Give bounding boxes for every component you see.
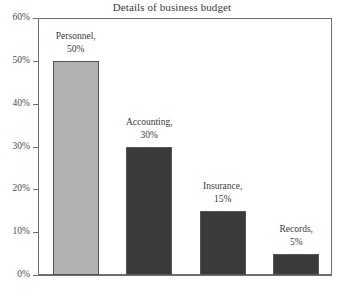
y-tick-mark xyxy=(33,275,38,276)
y-tick-label: 10% xyxy=(13,225,30,238)
y-tick-label: 60% xyxy=(13,11,30,24)
bar-accounting xyxy=(126,147,172,276)
y-axis-tick: 40% xyxy=(0,104,38,105)
bar-label-records: Records,5% xyxy=(246,223,344,249)
y-tick-label: 30% xyxy=(13,140,30,153)
chart-title: Details of business budget xyxy=(0,1,344,14)
y-tick-mark xyxy=(33,18,38,19)
y-axis-tick: 20% xyxy=(0,189,38,190)
bar-label-value: 30% xyxy=(99,129,201,142)
y-axis-tick: 0% xyxy=(0,275,38,276)
bar-label-name: Personnel, xyxy=(25,30,127,43)
y-tick-mark xyxy=(33,189,38,190)
y-axis-tick: 50% xyxy=(0,61,38,62)
y-axis-tick: 30% xyxy=(0,147,38,148)
bar-personnel xyxy=(53,61,99,275)
y-tick-label: 0% xyxy=(17,268,30,281)
bar-label-value: 5% xyxy=(246,236,344,249)
y-axis-tick: 60% xyxy=(0,18,38,19)
bar-records xyxy=(273,254,319,275)
bar-label-value: 15% xyxy=(172,193,274,206)
y-tick-mark xyxy=(33,147,38,148)
bar-chart: Details of business budget 60%50%40%30%2… xyxy=(0,0,344,307)
bar-label-name: Insurance, xyxy=(172,180,274,193)
bar-label-insurance: Insurance,15% xyxy=(172,180,274,206)
y-tick-mark xyxy=(33,232,38,233)
y-axis-tick: 10% xyxy=(0,232,38,233)
y-tick-label: 40% xyxy=(13,97,30,110)
y-tick-label: 20% xyxy=(13,182,30,195)
bar-label-name: Records, xyxy=(246,223,344,236)
bar-insurance xyxy=(200,211,246,275)
bar-label-name: Accounting, xyxy=(99,116,201,129)
x-axis-line xyxy=(38,275,332,276)
bar-label-accounting: Accounting,30% xyxy=(99,116,201,142)
y-tick-mark xyxy=(33,61,38,62)
bar-label-personnel: Personnel,50% xyxy=(25,30,127,56)
y-tick-mark xyxy=(33,104,38,105)
bar-label-value: 50% xyxy=(25,43,127,56)
